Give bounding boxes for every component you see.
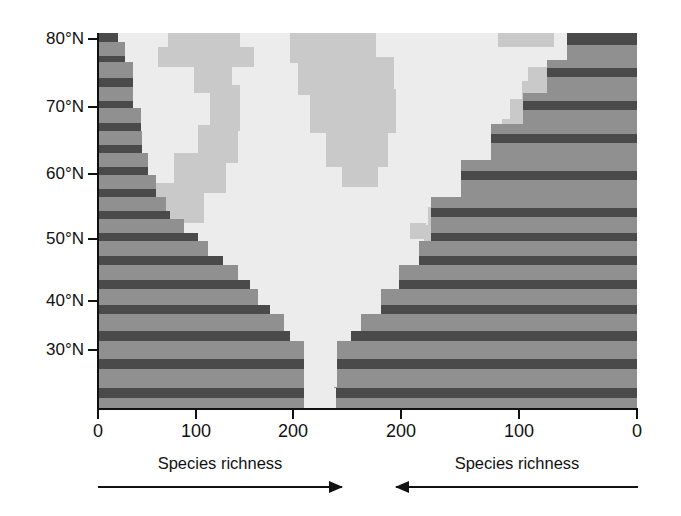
caption-right-arrow-line [396, 486, 638, 488]
x-tick-right-0 [636, 410, 638, 419]
y-tick-50 [88, 238, 97, 240]
bar-left-mid [98, 314, 284, 331]
y-tick-30 [88, 349, 97, 351]
bar-left-dark [98, 233, 198, 241]
bar-right-mid [419, 241, 637, 256]
bar-left-dark [98, 123, 141, 131]
bar-left-dark [98, 33, 118, 42]
bar-left-mid [98, 398, 304, 408]
bar-right-mid [315, 369, 637, 388]
y-axis-label-80: 80°N [46, 30, 84, 47]
bar-left-mid [98, 131, 142, 145]
bar-right-mid [361, 314, 637, 331]
bar-left-mid [98, 265, 238, 280]
bar-right-mid [491, 143, 637, 160]
bar-right-mid [547, 77, 637, 93]
bar-left-mid [98, 87, 133, 101]
bar-left-dark [98, 78, 133, 87]
bar-right-dark [381, 305, 637, 314]
y-axis-label-30: 30°N [46, 341, 84, 358]
y-axis-label-60: 60°N [46, 165, 84, 182]
caption-right-text: Species richness [396, 455, 638, 472]
bar-left-mid [98, 341, 304, 359]
bar-left-mid [98, 175, 156, 189]
bar-left-dark [98, 359, 304, 369]
bar-right-dark [523, 101, 637, 110]
bar-left-dark [98, 145, 142, 153]
bar-right-mid [567, 45, 637, 60]
x-tick-left-0 [97, 410, 99, 419]
x-axis-label-right-200: 200 [386, 422, 416, 440]
bar-left-dark [98, 101, 133, 108]
ocean-gap-lower [304, 341, 337, 387]
bar-right-mid [461, 180, 637, 197]
x-tick-left-200 [292, 410, 294, 419]
ocean-gap-base [306, 388, 336, 408]
x-tick-right-200 [400, 410, 402, 419]
bar-right-dark [399, 280, 637, 289]
bar-right-mid [431, 217, 637, 233]
bar-right-mid [547, 60, 637, 68]
y-tick-70 [88, 106, 97, 108]
bar-right-mid [337, 341, 637, 359]
bar-right-mid [431, 197, 637, 208]
bar-left-mid [98, 42, 125, 56]
bar-right-dark [431, 208, 637, 217]
y-tick-80 [88, 38, 97, 40]
bar-left-dark [98, 280, 250, 289]
y-axis-label-50: 50°N [46, 230, 84, 247]
x-tick-right-100 [518, 410, 520, 419]
y-axis-label-70: 70°N [46, 98, 84, 115]
ocean-gap-notch [290, 315, 306, 341]
x-tick-left-100 [195, 410, 197, 419]
bar-left-dark [98, 211, 170, 219]
bar-left-dark [98, 167, 148, 175]
bar-right-dark [419, 256, 637, 265]
bar-right-dark [461, 171, 637, 180]
bar-right-dark [351, 331, 637, 341]
y-axis-line [97, 33, 99, 409]
x-axis-label-left-100: 100 [181, 422, 211, 440]
plot-area [98, 33, 637, 408]
bar-left-mid [98, 241, 208, 256]
bar-right-dark [491, 134, 637, 143]
bar-left-mid [98, 153, 148, 167]
bar-right-mid [491, 124, 637, 134]
land-iceland-2 [342, 163, 374, 175]
y-axis-label-40: 40°N [46, 292, 84, 309]
bar-right-dark [547, 68, 637, 77]
x-axis-line [97, 408, 638, 410]
bar-left-dark [98, 256, 223, 265]
bar-left-mid [98, 108, 141, 123]
x-axis-label-left-200: 200 [278, 422, 308, 440]
land-svalbard [498, 33, 554, 47]
arrow-left-icon [395, 481, 409, 493]
bar-right-mid [381, 289, 637, 305]
bar-left-mid [98, 369, 304, 388]
land-ireland [410, 223, 426, 239]
x-axis-label-right-100: 100 [504, 422, 534, 440]
bar-left-dark [98, 388, 304, 398]
bar-right-dark [431, 233, 637, 241]
species-richness-figure: 80°N 70°N 60°N 50°N 40°N 30°N 0 100 200 … [0, 0, 681, 516]
y-tick-60 [88, 173, 97, 175]
caption-left-text: Species richness [98, 455, 342, 472]
bar-right-mid [399, 265, 637, 280]
bar-right-dark [567, 33, 637, 45]
bar-left-mid [98, 197, 166, 211]
y-tick-40 [88, 300, 97, 302]
x-axis-label-left-0: 0 [93, 422, 103, 440]
bar-right-dark [323, 359, 637, 369]
bar-right-mid [461, 160, 637, 171]
bar-right-mid [523, 110, 637, 124]
bar-left-mid [98, 289, 258, 305]
bar-left-dark [98, 189, 156, 197]
bar-left-mid [98, 219, 184, 233]
bar-right-mid [523, 93, 637, 101]
x-axis-label-right-0: 0 [632, 422, 642, 440]
bar-right-mid [315, 398, 637, 408]
caption-left: Species richness [98, 455, 342, 505]
bar-left-mid [98, 62, 133, 78]
caption-right: Species richness [396, 455, 638, 505]
bar-left-dark [98, 305, 270, 314]
